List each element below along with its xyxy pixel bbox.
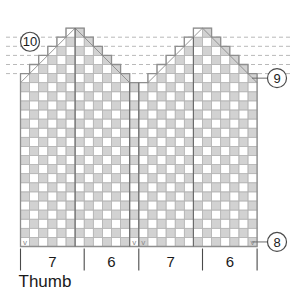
chart-cell — [221, 137, 230, 146]
chart-cell — [112, 183, 121, 192]
chart-cell — [157, 146, 166, 155]
chart-cell — [203, 119, 212, 128]
chart-cell — [75, 128, 84, 137]
chart-cell — [203, 110, 212, 119]
chart-cell — [84, 219, 93, 228]
chart-cell — [139, 119, 148, 128]
chart-cell — [93, 55, 102, 64]
chart-cell — [221, 183, 230, 192]
chart-cell — [175, 210, 184, 219]
chart-cell — [157, 92, 166, 101]
chart-cell — [102, 119, 111, 128]
chart-cell — [66, 192, 75, 201]
chart-cell — [57, 92, 66, 101]
chart-cell — [48, 174, 57, 183]
chart-cell — [84, 128, 93, 137]
chart-cell — [121, 192, 130, 201]
chart-cell — [184, 74, 193, 83]
chart-cell — [21, 156, 30, 165]
chart-cell — [121, 183, 130, 192]
chart-cell — [121, 110, 130, 119]
chart-cell — [193, 237, 202, 246]
thumb-caption-label: Thumb — [19, 272, 72, 291]
chart-cell — [139, 128, 148, 137]
chart-cell — [157, 128, 166, 137]
chart-cell — [102, 219, 111, 228]
chart-cell — [93, 92, 102, 101]
chart-cell — [121, 83, 130, 92]
chart-cell — [66, 65, 75, 74]
chart-cell — [212, 237, 221, 246]
chart-cell — [184, 156, 193, 165]
chart-cell — [148, 83, 157, 92]
chart-cell — [48, 210, 57, 219]
chart-cell — [66, 37, 75, 46]
chart-cell — [112, 74, 121, 83]
chart-cell — [48, 101, 57, 110]
chart-cell — [166, 137, 175, 146]
chart-cell — [212, 46, 221, 55]
chart-cell — [166, 192, 175, 201]
chart-cell — [212, 201, 221, 210]
chart-cell — [166, 174, 175, 183]
chart-cell — [166, 146, 175, 155]
chart-cell — [157, 119, 166, 128]
chart-cell — [184, 46, 193, 55]
chart-cell — [248, 210, 257, 219]
chart-cell — [184, 219, 193, 228]
chart-cell — [84, 192, 93, 201]
chart-cell — [93, 165, 102, 174]
chart-cell — [166, 201, 175, 210]
chart-cell — [48, 110, 57, 119]
chart-cell — [221, 128, 230, 137]
chart-cell — [193, 210, 202, 219]
chart-cell — [175, 83, 184, 92]
chart-cell — [66, 74, 75, 83]
chart-cell — [157, 137, 166, 146]
chart-cell — [112, 137, 121, 146]
chart-cell — [230, 210, 239, 219]
chart-cell — [102, 137, 111, 146]
chart-cell — [248, 219, 257, 228]
chart-cell — [75, 101, 84, 110]
chart-cell — [48, 119, 57, 128]
chart-cell — [175, 146, 184, 155]
chart-cell — [166, 101, 175, 110]
chart-cell — [21, 119, 30, 128]
chart-cell — [48, 137, 57, 146]
chart-cell — [57, 165, 66, 174]
row-marker-label: 9 — [273, 71, 280, 86]
chart-cell — [148, 156, 157, 165]
chart-cell — [39, 83, 48, 92]
chart-cell — [184, 146, 193, 155]
chart-cell — [66, 101, 75, 110]
chart-cell — [121, 128, 130, 137]
chart-cell — [239, 183, 248, 192]
chart-cell — [39, 119, 48, 128]
chart-cell — [66, 201, 75, 210]
chart-cell — [203, 237, 212, 246]
chart-cell — [30, 237, 39, 246]
chart-cell — [239, 192, 248, 201]
chart-cell — [112, 83, 121, 92]
chart-cell — [184, 228, 193, 237]
chart-cell — [239, 128, 248, 137]
chart-cell — [30, 174, 39, 183]
chart-cell — [39, 183, 48, 192]
chart-cell — [57, 201, 66, 210]
chart-cell — [130, 192, 139, 201]
chart-cell — [239, 237, 248, 246]
chart-cell — [84, 65, 93, 74]
chart-cell — [193, 46, 202, 55]
chart-cell — [239, 228, 248, 237]
chart-cell — [21, 228, 30, 237]
chart-cell — [112, 201, 121, 210]
chart-cell — [66, 183, 75, 192]
chart-cell — [21, 210, 30, 219]
chart-cell — [157, 219, 166, 228]
chart-cell — [75, 92, 84, 101]
chart-cell — [230, 228, 239, 237]
chart-cell — [130, 210, 139, 219]
chart-cell — [48, 74, 57, 83]
chart-cell — [130, 156, 139, 165]
